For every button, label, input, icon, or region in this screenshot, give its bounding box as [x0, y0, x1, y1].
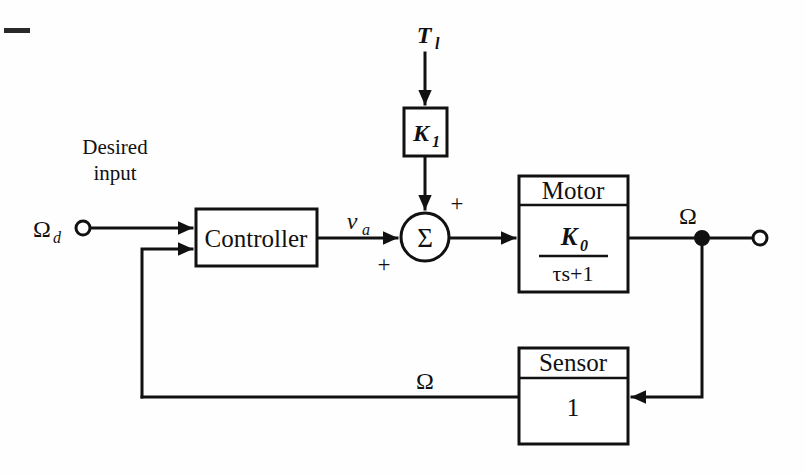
output-terminal-node[interactable]	[753, 231, 767, 245]
block-controller-label: Controller	[205, 225, 308, 252]
block-sensor-value: 1	[567, 394, 580, 421]
summing-junction-plus-top: +	[451, 191, 464, 216]
block-motor-numerator: K	[560, 223, 580, 250]
summing-junction-symbol: Σ	[417, 223, 433, 253]
summing-junction-plus-bottom: +	[378, 252, 391, 277]
block-motor-numerator-subscript: 0	[580, 237, 588, 254]
block-disturbance-gain-symbol: K	[412, 120, 431, 146]
output-signal-label: Ω	[679, 203, 697, 229]
scan-artifact	[4, 28, 30, 33]
controller-output-subscript: a	[362, 221, 370, 238]
block-disturbance-gain-subscript: 1	[432, 133, 440, 150]
block-sensor-header: Sensor	[539, 349, 608, 376]
feedback-signal-label: Ω	[416, 368, 434, 394]
controller-output-label: v	[347, 208, 358, 234]
desired-input-label-line1: Desired	[82, 135, 148, 159]
disturbance-signal-label: T	[417, 22, 433, 48]
reference-signal-label: Ω	[33, 216, 51, 242]
block-motor-denominator: τs+1	[553, 261, 594, 286]
wire-output-to-sensor	[632, 238, 702, 397]
block-motor-header: Motor	[542, 177, 605, 204]
desired-input-label-line2: input	[93, 161, 136, 185]
disturbance-signal-subscript: l	[435, 35, 440, 52]
wire-feedback-to-controller	[142, 249, 192, 397]
reference-signal-subscript: d	[53, 229, 62, 246]
block-diagram-page: K 1 Controller Motor K 0 τs+1 Sensor 1 Σ…	[0, 0, 806, 474]
input-terminal-node[interactable]	[76, 221, 90, 235]
control-system-diagram: K 1 Controller Motor K 0 τs+1 Sensor 1 Σ…	[0, 0, 806, 474]
output-takeoff-node[interactable]	[695, 231, 709, 245]
